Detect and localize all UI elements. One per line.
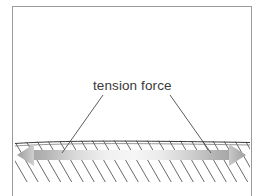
rope-hatching — [4, 140, 266, 187]
arrow-head-right — [229, 144, 246, 166]
rope-top-edge — [15, 141, 250, 143]
rope-band — [4, 140, 266, 187]
arrow-shaft — [30, 150, 230, 160]
left-leader-line — [62, 95, 103, 153]
diagram-canvas: tension force — [0, 0, 266, 196]
tension-force-illustration — [0, 0, 266, 196]
tension-force-label: tension force — [93, 78, 172, 93]
arrow-head-left — [17, 144, 34, 166]
